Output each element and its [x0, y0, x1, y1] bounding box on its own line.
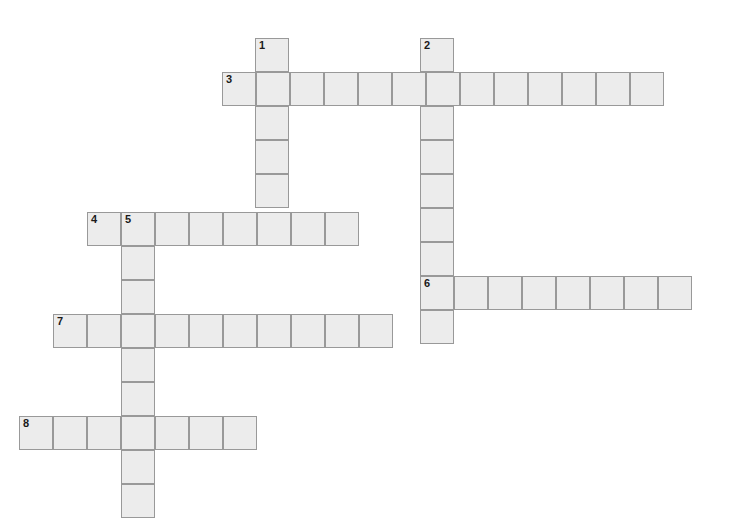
crossword-cell[interactable] — [223, 416, 257, 450]
crossword-grid: 12345678 — [0, 0, 729, 523]
crossword-cell[interactable] — [155, 416, 189, 450]
crossword-cell[interactable] — [420, 310, 454, 344]
crossword-cell[interactable] — [460, 72, 494, 106]
crossword-cell[interactable] — [189, 212, 223, 246]
clue-number-1: 1 — [259, 40, 265, 51]
crossword-cell[interactable] — [223, 212, 257, 246]
crossword-cell[interactable] — [291, 314, 325, 348]
crossword-cell[interactable] — [257, 212, 291, 246]
crossword-cell[interactable] — [121, 246, 155, 280]
clue-number-4: 4 — [91, 214, 97, 225]
crossword-cell[interactable] — [420, 140, 454, 174]
crossword-cell[interactable]: 3 — [222, 72, 256, 106]
crossword-cell[interactable] — [189, 416, 223, 450]
crossword-cell[interactable] — [630, 72, 664, 106]
clue-number-7: 7 — [57, 316, 63, 327]
clue-number-5: 5 — [125, 214, 131, 225]
crossword-cell[interactable] — [324, 72, 358, 106]
crossword-cell[interactable] — [189, 314, 223, 348]
crossword-cell[interactable] — [494, 72, 528, 106]
crossword-cell[interactable] — [121, 280, 155, 314]
crossword-cell[interactable] — [155, 314, 189, 348]
crossword-cell[interactable] — [223, 314, 257, 348]
crossword-cell[interactable] — [454, 276, 488, 310]
clue-number-8: 8 — [23, 418, 29, 429]
crossword-cell[interactable] — [420, 174, 454, 208]
crossword-cell[interactable] — [562, 72, 596, 106]
crossword-cell[interactable] — [87, 416, 121, 450]
crossword-cell[interactable] — [358, 72, 392, 106]
crossword-cell[interactable] — [255, 106, 289, 140]
clue-number-6: 6 — [424, 278, 430, 289]
crossword-cell[interactable]: 4 — [87, 212, 121, 246]
crossword-cell[interactable]: 1 — [255, 38, 289, 72]
crossword-cell[interactable] — [121, 416, 155, 450]
crossword-cell[interactable]: 5 — [121, 212, 155, 246]
crossword-cell[interactable]: 2 — [420, 38, 454, 72]
crossword-cell[interactable] — [420, 242, 454, 276]
crossword-cell[interactable] — [528, 72, 562, 106]
crossword-cell[interactable] — [522, 276, 556, 310]
crossword-cell[interactable]: 8 — [19, 416, 53, 450]
clue-number-3: 3 — [226, 74, 232, 85]
crossword-cell[interactable] — [624, 276, 658, 310]
crossword-cell[interactable] — [426, 72, 460, 106]
crossword-cell[interactable] — [121, 450, 155, 484]
crossword-cell[interactable] — [255, 174, 289, 208]
crossword-cell[interactable] — [87, 314, 121, 348]
crossword-cell[interactable] — [257, 314, 291, 348]
crossword-cell[interactable] — [359, 314, 393, 348]
crossword-cell[interactable] — [420, 208, 454, 242]
crossword-cell[interactable] — [121, 314, 155, 348]
crossword-cell[interactable] — [121, 484, 155, 518]
crossword-cell[interactable] — [488, 276, 522, 310]
crossword-cell[interactable] — [291, 212, 325, 246]
crossword-cell[interactable]: 7 — [53, 314, 87, 348]
crossword-cell[interactable] — [590, 276, 624, 310]
crossword-cell[interactable] — [155, 212, 189, 246]
crossword-cell[interactable] — [556, 276, 590, 310]
crossword-cell[interactable] — [596, 72, 630, 106]
crossword-cell[interactable] — [255, 140, 289, 174]
crossword-cell[interactable] — [392, 72, 426, 106]
crossword-cell[interactable] — [420, 106, 454, 140]
crossword-cell[interactable] — [290, 72, 324, 106]
crossword-cell[interactable] — [325, 212, 359, 246]
crossword-cell[interactable] — [256, 72, 290, 106]
crossword-cell[interactable] — [53, 416, 87, 450]
crossword-cell[interactable] — [325, 314, 359, 348]
crossword-cell[interactable] — [658, 276, 692, 310]
crossword-cell[interactable] — [121, 348, 155, 382]
crossword-cell[interactable]: 6 — [420, 276, 454, 310]
clue-number-2: 2 — [424, 40, 430, 51]
crossword-cell[interactable] — [121, 382, 155, 416]
